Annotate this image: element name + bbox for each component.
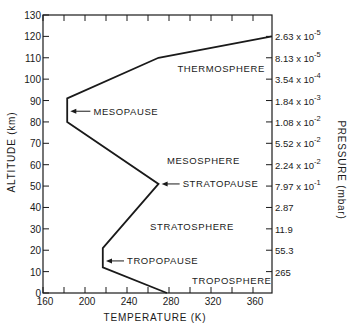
arrow-left-icon <box>70 109 76 114</box>
y-tick-label: 80 <box>30 117 42 128</box>
pressure-tick-label: 2.24 x 10-2 <box>275 157 321 171</box>
atmosphere-temperature-chart: 160200240280320360 010203040506070809010… <box>0 0 351 326</box>
layer-label: MESOPAUSE <box>93 106 158 117</box>
y-tick-label: 50 <box>30 181 42 192</box>
y-tick-label: 100 <box>24 74 41 85</box>
x-tick-label: 320 <box>205 296 222 307</box>
pressure-axis-ticks: 2.63 x 10-58.13 x 10-53.54 x 10-41.84 x … <box>266 28 321 277</box>
y-tick-label: 130 <box>24 10 41 21</box>
pressure-tick-label: 265 <box>275 267 291 278</box>
x-tick-label: 240 <box>121 296 138 307</box>
y-tick-label: 110 <box>25 53 41 64</box>
layer-label: THERMOSPHERE <box>177 63 264 74</box>
arrow-left-icon <box>106 258 112 263</box>
pressure-tick-label: 1.08 x 10-2 <box>275 114 321 128</box>
y-tick-label: 20 <box>30 245 42 256</box>
layer-label: TROPOPAUSE <box>127 255 198 266</box>
y-tick-label: 10 <box>30 267 42 278</box>
layer-label: STRATOPAUSE <box>183 178 259 189</box>
layer-label: STRATOSPHERE <box>150 221 234 232</box>
pressure-tick-label: 2.87 <box>275 202 294 213</box>
y-tick-label: 0 <box>35 288 41 299</box>
layer-label: TROPOSPHERE <box>192 275 271 286</box>
x-axis-title: TEMPERATURE (K) <box>104 312 207 323</box>
y-tick-label: 90 <box>30 96 42 107</box>
arrow-left-icon <box>162 181 168 186</box>
pressure-tick-label: 1.84 x 10-3 <box>275 93 321 107</box>
pressure-tick-label: 7.97 x 10-1 <box>275 178 321 192</box>
y-axis-title: ALTITUDE (km) <box>6 112 17 193</box>
y-tick-label: 120 <box>24 31 41 42</box>
layer-label: MESOSPHERE <box>167 155 240 166</box>
x-tick-label: 200 <box>79 296 96 307</box>
x-tick-label: 360 <box>247 296 264 307</box>
y-tick-label: 70 <box>30 138 42 149</box>
pressure-tick-label: 5.52 x 10-2 <box>275 135 321 149</box>
pressure-tick-label: 8.13 x 10-5 <box>275 50 321 64</box>
y-axis-ticks: 0102030405060708090100110120130 <box>24 10 49 299</box>
pressure-tick-label: 55.3 <box>275 245 294 256</box>
pressure-tick-label: 3.54 x 10-4 <box>275 71 321 85</box>
y-tick-label: 60 <box>30 160 42 171</box>
x-tick-label: 280 <box>163 296 180 307</box>
layer-annotations: THERMOSPHEREMESOPAUSEMESOSPHERESTRATOPAU… <box>70 63 271 286</box>
pressure-axis-title: PRESSURE (mbar) <box>336 120 347 219</box>
y-tick-label: 40 <box>30 202 42 213</box>
pressure-tick-label: 2.63 x 10-5 <box>275 28 321 42</box>
y-tick-label: 30 <box>30 224 42 235</box>
pressure-tick-label: 11.9 <box>275 224 293 235</box>
